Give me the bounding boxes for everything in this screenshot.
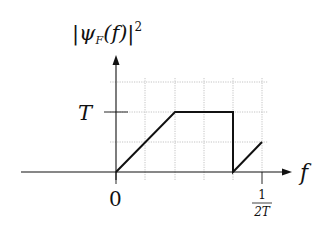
x-axis: [21, 169, 292, 185]
y-axis-arrow-icon: [113, 55, 120, 65]
grid: [110, 78, 268, 180]
y-tick-label-T: T: [78, 101, 94, 125]
x-axis-arrow-icon: [282, 169, 292, 176]
x-tick-label-zero: 0: [109, 187, 122, 211]
svg-text:1: 1: [258, 188, 266, 202]
y-axis-label: |ψF(f)|2: [72, 20, 142, 47]
x-axis-label: f: [298, 160, 312, 185]
chart-canvas: |ψF(f)|2 f T 0 1 2T: [0, 0, 327, 235]
y-axis: [104, 55, 128, 180]
x-tick-label-half-over-T: 1 2T: [252, 188, 272, 219]
svg-text:2T: 2T: [253, 205, 271, 219]
